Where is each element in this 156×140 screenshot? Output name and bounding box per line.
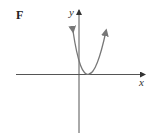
- parabola-curve: [73, 31, 106, 74]
- parabola-plot: y x: [0, 0, 156, 140]
- y-axis-label: y: [68, 6, 74, 18]
- x-axis-label: x: [138, 76, 144, 88]
